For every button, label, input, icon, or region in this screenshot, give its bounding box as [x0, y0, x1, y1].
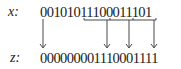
bracket-2: [110, 18, 133, 20]
bracket-3: [133, 18, 156, 20]
connection-diagram: [0, 0, 181, 69]
bracket-1: [84, 18, 110, 20]
